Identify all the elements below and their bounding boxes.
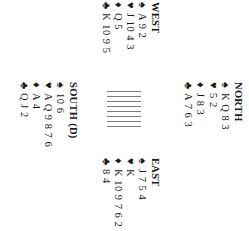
hand-north-diamonds: ♦J 8 3 (194, 82, 207, 115)
spade-icon: ♠ (137, 158, 149, 169)
spade-icon: ♠ (55, 82, 67, 93)
club-icon: ♣ (101, 158, 113, 169)
hand-west-spades: ♠A 9 2 (136, 2, 149, 38)
club-icon: ♣ (183, 82, 195, 93)
table-line (107, 116, 141, 117)
hand-south-clubs: ♣Q J 2 (18, 82, 31, 118)
hand-east-spades: ♠J 7 5 4 (136, 158, 149, 200)
hand-north-spades: ♠K Q 8 3 (219, 82, 232, 130)
table-line (107, 126, 141, 127)
diamond-icon: ♦ (113, 2, 125, 13)
hand-north-clubs: ♣A 7 6 3 (182, 82, 195, 127)
hand-west-title: WEST (149, 2, 161, 34)
hand-south-diamonds: ♦A 4 (30, 82, 43, 109)
hand-south-hearts: ♥A Q 9 8 7 6 (42, 82, 55, 147)
hand-west-diamonds: ♦Q 5 (112, 2, 125, 30)
diamond-icon: ♦ (113, 158, 125, 169)
heart-icon: ♥ (43, 82, 55, 93)
table-center-lines (107, 91, 141, 131)
hand-east-diamonds: ♦K 10 9 7 6 2 (112, 158, 125, 227)
hand-east-hearts: ♥K (124, 158, 137, 177)
hand-north-title: NORTH (232, 82, 244, 122)
heart-icon: ♥ (208, 82, 220, 93)
hand-west-clubs: ♣K 10 9 5 (100, 2, 113, 53)
hand-south-title: SOUTH (D) (67, 82, 79, 139)
club-icon: ♣ (101, 2, 113, 13)
diamond-icon: ♦ (31, 82, 43, 93)
table-line (107, 121, 141, 122)
heart-icon: ♥ (125, 158, 137, 169)
diamond-icon: ♦ (195, 82, 207, 93)
spade-icon: ♠ (220, 82, 232, 93)
club-icon: ♣ (19, 82, 31, 93)
spade-icon: ♠ (137, 2, 149, 13)
hand-west-hearts: ♥J 10 4 3 (124, 2, 137, 50)
table-line (107, 106, 141, 107)
table-line (107, 96, 141, 97)
hand-east-title: EAST (149, 158, 161, 187)
table-line (107, 91, 141, 92)
hand-north-hearts: ♥5 2 (207, 82, 220, 108)
table-line (107, 101, 141, 102)
hand-east-clubs: ♣8 4 (100, 158, 113, 184)
table-line (107, 111, 141, 112)
hand-south-spades: ♠10 6 (54, 82, 67, 113)
heart-icon: ♥ (125, 2, 137, 13)
